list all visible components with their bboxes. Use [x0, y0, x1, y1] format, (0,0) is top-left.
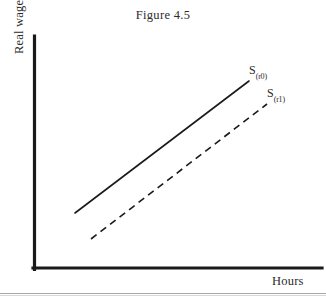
curve-label-s-r0-subscript: (r0) — [256, 72, 267, 81]
page-edge-line-secondary — [0, 295, 326, 296]
figure-container: Figure 4.5 Real wage Hours S(r0) S(r1) — [0, 0, 326, 300]
supply-curve-r1 — [91, 104, 267, 239]
y-axis-label-text: Real wage — [12, 0, 26, 54]
curve-label-s-r1-subscript: (r1) — [274, 95, 285, 104]
page-edge-line — [0, 293, 326, 294]
curve-label-s-r0: S(r0) — [249, 64, 267, 79]
curve-label-s-r1: S(r1) — [267, 87, 285, 102]
plot-area — [0, 0, 326, 300]
supply-curve-r0 — [75, 81, 249, 213]
y-axis-label: Real wage — [12, 0, 28, 54]
x-axis-label-text: Hours — [272, 274, 304, 288]
x-axis-label: Hours — [272, 274, 304, 289]
curve-label-s-r0-main: S — [249, 63, 256, 77]
curve-label-s-r1-main: S — [267, 86, 274, 100]
